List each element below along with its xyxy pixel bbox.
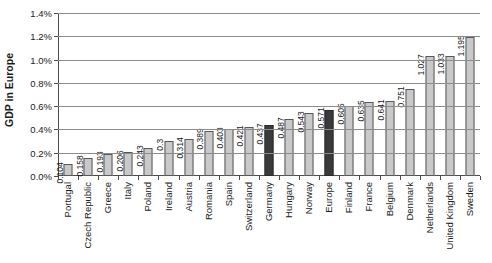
x-axis-tick-mark (78, 176, 79, 180)
bar-value-label: 0.3 (156, 139, 165, 151)
bar[interactable] (385, 101, 394, 176)
gridline (58, 153, 480, 154)
bar-value-label: 0.158 (75, 156, 84, 177)
x-axis-tick-mark (440, 176, 441, 180)
bar[interactable] (425, 56, 434, 176)
x-axis-category-label: France (364, 182, 374, 212)
y-axis-tick-label: 0.2% (30, 147, 52, 158)
x-axis-category-label: Denmark (405, 182, 415, 221)
y-axis-title-label: GDP in Europe (3, 53, 15, 127)
y-axis-tick-label: 0.4% (30, 124, 52, 135)
bar-value-label: 0.635 (357, 100, 366, 121)
x-axis-category-label: Portugal (63, 182, 73, 217)
x-axis-tick-mark (239, 176, 240, 180)
bar-slot: 1.195 (460, 13, 480, 176)
bar[interactable] (164, 141, 173, 176)
bar[interactable] (64, 164, 73, 176)
bar-value-label: 0.437 (256, 123, 265, 144)
x-axis-category-labels: PortugalCzech RepublicGreeceItalyPolandI… (58, 182, 480, 263)
y-axis-tick-label: 0.6% (30, 101, 52, 112)
bar[interactable] (264, 125, 273, 176)
x-axis-tick-mark (58, 176, 59, 180)
gridline (58, 36, 480, 37)
x-axis-tick-mark (339, 176, 340, 180)
x-axis-tick-mark (319, 176, 320, 180)
bar[interactable] (244, 127, 253, 176)
y-axis-tick-mark (54, 153, 58, 154)
bar-slot: 0.543 (299, 13, 319, 176)
x-axis-tick-mark (400, 176, 401, 180)
x-axis-tick-mark (138, 176, 139, 180)
x-axis-tick-mark (359, 176, 360, 180)
bar-value-label: 1.195 (457, 35, 466, 56)
x-axis-tick-mark (219, 176, 220, 180)
bar-slot: 0.243 (138, 13, 158, 176)
bar-value-label: 0.487 (276, 117, 285, 138)
bar[interactable] (405, 89, 414, 176)
y-axis-tick-label: 0.8% (30, 77, 52, 88)
gridline (58, 13, 480, 14)
x-axis-category-label: Greece (103, 182, 113, 213)
plot-area: 0.1040.1580.1930.2060.2430.30.3140.3890.… (58, 13, 480, 176)
bar-value-label: 0.389 (196, 129, 205, 150)
bar-slot: 0.421 (239, 13, 259, 176)
y-axis-tick-mark (54, 36, 58, 37)
x-axis-category-label: Poland (143, 182, 153, 212)
bar[interactable] (104, 154, 113, 176)
x-axis-category-label: Spain (224, 182, 234, 206)
bar[interactable] (365, 102, 374, 176)
bar-slot: 0.314 (179, 13, 199, 176)
bar-slot: 0.389 (199, 13, 219, 176)
x-axis-category-label: Czech Republic (83, 182, 93, 249)
bar[interactable] (305, 113, 314, 176)
x-axis-category-label: Hungary (284, 182, 294, 218)
bar-slot: 0.635 (359, 13, 379, 176)
x-axis-tick-mark (259, 176, 260, 180)
y-axis-tick-label: 0.0% (30, 171, 52, 182)
x-axis-category-label: Netherlands (425, 182, 435, 233)
bar-value-label: 0.104 (55, 162, 64, 183)
gridline (58, 60, 480, 61)
bar-slot: 0.605 (339, 13, 359, 176)
x-axis-category-label: Ireland (164, 182, 174, 211)
x-axis-category-label: Switzerland (244, 182, 254, 231)
x-axis-tick-mark (299, 176, 300, 180)
y-axis-tick-mark (54, 83, 58, 84)
x-axis-tick-mark (199, 176, 200, 180)
x-axis-tick-mark (279, 176, 280, 180)
x-axis-category-label: Norway (304, 182, 314, 214)
bar-chart: GDP in Europe 0.0%0.2%0.4%0.6%0.8%1.0%1.… (0, 0, 492, 263)
bar-slot: 0.571 (319, 13, 339, 176)
x-axis-tick-mark (158, 176, 159, 180)
bar[interactable] (285, 119, 294, 176)
bar-value-label: 0.571 (317, 108, 326, 129)
gridline (58, 129, 480, 130)
bar-slot: 0.403 (219, 13, 239, 176)
x-axis-category-label: Austria (184, 182, 194, 212)
bar[interactable] (345, 106, 354, 176)
x-axis-tick-mark (480, 176, 481, 180)
x-axis-category-label: Finland (344, 182, 354, 213)
bar[interactable] (184, 139, 193, 176)
bar-value-label: 0.193 (95, 152, 104, 173)
bar[interactable] (124, 152, 133, 176)
gridline (58, 106, 480, 107)
x-axis-category-label: Italy (123, 182, 133, 199)
x-axis-category-label: Germany (264, 182, 274, 221)
y-axis-tick-label: 1.2% (30, 31, 52, 42)
gridline (58, 83, 480, 84)
bar-slot: 0.487 (279, 13, 299, 176)
x-axis-tick-mark (380, 176, 381, 180)
bar[interactable] (325, 110, 334, 176)
x-axis-tick-mark (98, 176, 99, 180)
bar-value-label: 0.243 (136, 146, 145, 167)
x-axis-tick-mark (460, 176, 461, 180)
x-axis-category-label: Romania (204, 182, 214, 220)
bar-slot: 0.751 (400, 13, 420, 176)
bar-value-label: 0.314 (176, 137, 185, 158)
bar-value-label: 0.751 (397, 87, 406, 108)
x-axis-category-label: Sweden (465, 182, 475, 216)
bar[interactable] (84, 158, 93, 176)
x-axis-tick-mark (118, 176, 119, 180)
bar[interactable] (445, 56, 454, 176)
